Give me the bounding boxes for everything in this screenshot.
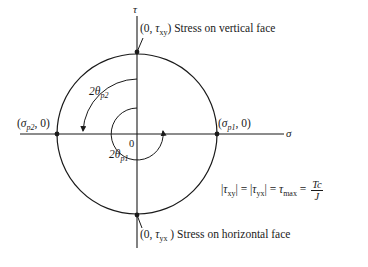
left-point-label: (σp2, 0) bbox=[17, 118, 50, 132]
angle-label-2theta-p1: 2θp1 bbox=[109, 149, 128, 163]
bottom-point-label: (0, τyx ) Stress on horizontal face bbox=[140, 229, 290, 243]
eq-fraction: TcJ bbox=[311, 179, 323, 202]
point-left bbox=[55, 132, 60, 137]
top-point-label: (0, τxy) Stress on vertical face bbox=[140, 23, 275, 37]
bottom-point-description: Stress on horizontal face bbox=[177, 228, 290, 240]
origin-label: 0 bbox=[129, 139, 134, 150]
left-point-subscript: p2 bbox=[27, 123, 35, 132]
eq-equals-2: = bbox=[267, 183, 279, 195]
angle-outer-subscript: p2 bbox=[100, 91, 108, 100]
top-point-coord-suffix: ) bbox=[167, 22, 171, 34]
sigma-axis-label: σ bbox=[286, 128, 291, 139]
right-point-label: (σp1, 0) bbox=[218, 118, 251, 132]
diagram-graphics bbox=[0, 0, 368, 267]
eq-equals-3: = bbox=[297, 183, 309, 195]
mohr-circle-diagram: τ σ 0 (0, τxy) Stress on vertical face (… bbox=[0, 0, 368, 267]
shear-stress-equation: |τxy| = |τyx| = τmax = TcJ bbox=[221, 179, 323, 202]
angle-label-2theta-p2: 2θp2 bbox=[89, 86, 108, 100]
point-bottom bbox=[135, 213, 140, 218]
point-right bbox=[215, 132, 220, 137]
angle-inner-subscript: p1 bbox=[120, 154, 128, 163]
bottom-point-coord-suffix: ) bbox=[167, 228, 174, 240]
eq-equals-1: = bbox=[238, 183, 250, 195]
tau-axis-label: τ bbox=[133, 4, 137, 15]
eq-tau-max-sub: max bbox=[283, 189, 297, 198]
point-top bbox=[135, 50, 140, 55]
top-point-coord-prefix: (0, bbox=[140, 22, 155, 34]
bottom-point-coord-prefix: (0, bbox=[140, 228, 155, 240]
top-point-description: Stress on vertical face bbox=[174, 22, 275, 34]
right-point-coord-suffix: , 0) bbox=[236, 117, 251, 129]
right-point-subscript: p1 bbox=[228, 123, 236, 132]
left-point-coord-suffix: , 0) bbox=[35, 117, 50, 129]
eq-numerator: Tc bbox=[311, 179, 323, 191]
eq-denominator: J bbox=[315, 191, 320, 202]
